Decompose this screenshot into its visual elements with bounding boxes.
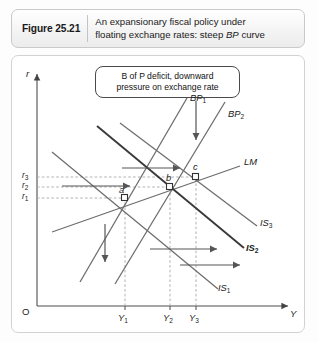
curve-label-is3: IS3	[260, 217, 273, 228]
curve-label-lm: LM	[244, 156, 257, 167]
figure-caption-bar: Figure 25.21 An expansionary fiscal poli…	[11, 9, 305, 48]
point-label-b: b	[166, 172, 171, 183]
figure-number: Figure 25.21	[18, 20, 86, 37]
curve-label-is2: IS2	[246, 242, 259, 253]
guide-lines	[37, 177, 196, 306]
curve-label-bp2-sub: 2	[241, 113, 245, 120]
y-tick-label-r3: r3	[22, 170, 28, 180]
x-tick-sub-y2: 2	[169, 317, 173, 324]
curve-label-bp2: BP2	[228, 108, 244, 119]
point-marker-c	[193, 174, 199, 180]
x-tick-sub-y1: 1	[124, 317, 128, 324]
curve-label-is1-base: IS	[218, 282, 227, 293]
curve-label-is1: IS1	[218, 282, 231, 293]
caption-line-2-emphasis: BP	[226, 29, 239, 40]
x-tick-label-y3: Y3	[189, 312, 199, 323]
point-label-c: c	[193, 161, 198, 172]
x-tick-label-y1: Y1	[118, 312, 128, 323]
point-marker-a	[122, 195, 128, 201]
figure-caption-text: An expansionary fiscal policy under floa…	[95, 16, 300, 41]
x-axis-ticks	[125, 306, 196, 310]
y-axis-label: r	[26, 68, 29, 79]
point-marker-b	[167, 184, 173, 190]
curve-label-is3-sub: 3	[269, 222, 273, 229]
x-tick-label-y2: Y2	[163, 312, 173, 323]
x-axis-label: Y	[290, 308, 296, 319]
y-tick-label-r1: r1	[22, 191, 28, 201]
caption-divider	[87, 15, 88, 42]
curve-label-is3-base: IS	[260, 217, 269, 228]
curve-is3	[120, 123, 257, 226]
axis-lines	[37, 74, 288, 306]
curve-is1	[52, 152, 218, 289]
curve-label-is2-sub: 2	[255, 247, 259, 254]
caption-line-2-prefix: floating exchange rates: steep	[95, 29, 226, 40]
caption-line-1: An expansionary fiscal policy under	[95, 16, 245, 27]
annotation-line-2: pressure on exchange rate	[116, 82, 218, 92]
curve-label-bp1-base: BP	[190, 92, 203, 103]
caption-line-2-suffix: curve	[239, 29, 265, 40]
annotation-callout: B of P deficit, downward pressure on exc…	[95, 66, 240, 98]
x-tick-sub-y3: 3	[195, 317, 199, 324]
y-tick-label-r2: r2	[22, 180, 28, 190]
point-label-a: a	[119, 184, 124, 195]
diagram-plot-frame: B of P deficit, downward pressure on exc…	[11, 55, 305, 333]
curve-label-lm-base: LM	[244, 156, 257, 167]
curve-label-bp1-sub: 1	[203, 97, 207, 104]
curve-label-is2-base: IS	[246, 242, 255, 253]
curve-label-bp2-base: BP	[228, 108, 241, 119]
origin-label: O	[22, 306, 29, 317]
curve-label-bp1: BP1	[190, 92, 206, 103]
annotation-line-1: B of P deficit, downward	[121, 71, 213, 81]
y-tick-sub-r2: 2	[25, 184, 29, 191]
figure-container: Figure 25.21 An expansionary fiscal poli…	[0, 0, 318, 342]
y-tick-sub-r1: 1	[25, 195, 29, 202]
curve-label-is1-sub: 1	[227, 287, 231, 294]
